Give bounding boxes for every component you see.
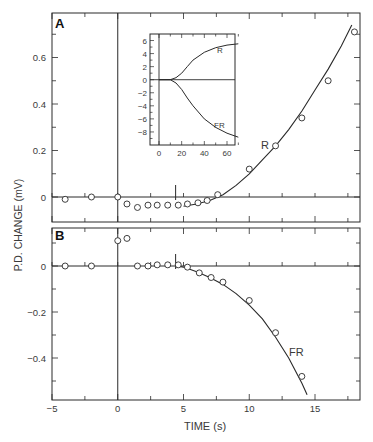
inset-y-tick-label: −2 bbox=[138, 89, 148, 98]
data-point bbox=[165, 202, 171, 208]
data-point bbox=[115, 238, 121, 244]
data-point bbox=[215, 192, 221, 198]
inset-x-tick-label: 40 bbox=[200, 149, 209, 158]
data-point bbox=[351, 29, 357, 35]
data-point bbox=[220, 279, 226, 285]
data-point bbox=[115, 194, 121, 200]
inset-label-fr: FR bbox=[214, 121, 225, 130]
inset-y-tick-label: −4 bbox=[138, 102, 148, 111]
y-tick-label: −0.2 bbox=[27, 307, 46, 318]
data-point bbox=[154, 262, 160, 268]
panel-label-a: A bbox=[55, 16, 65, 31]
curve-label-fr: FR bbox=[289, 346, 304, 358]
y-tick-label: 0.6 bbox=[33, 52, 46, 63]
data-point bbox=[246, 298, 252, 304]
fit-curve bbox=[177, 266, 307, 395]
data-point bbox=[273, 143, 279, 149]
data-point bbox=[325, 78, 331, 84]
data-point bbox=[145, 202, 151, 208]
data-point bbox=[88, 263, 94, 269]
inset-y-tick-label: −8 bbox=[138, 128, 148, 137]
figure: 00.20.40.6−50510150−0.2−0.46420−2−4−6−80… bbox=[0, 0, 373, 442]
y-tick-label: 0 bbox=[41, 192, 46, 203]
chart-layer: 00.20.40.6−50510150−0.2−0.46420−2−4−6−80… bbox=[27, 13, 360, 414]
data-point bbox=[184, 264, 190, 270]
data-point bbox=[175, 202, 181, 208]
x-tick-label: −5 bbox=[47, 403, 58, 414]
data-point bbox=[134, 204, 140, 210]
data-point bbox=[88, 194, 94, 200]
inset-x-tick-label: 20 bbox=[177, 149, 186, 158]
y-tick-label: 0.2 bbox=[33, 145, 46, 156]
data-point bbox=[299, 373, 305, 379]
y-tick-label: −0.4 bbox=[27, 353, 46, 364]
data-point bbox=[195, 200, 201, 206]
y-tick-label: 0 bbox=[41, 261, 46, 272]
data-point bbox=[184, 201, 190, 207]
data-point bbox=[154, 202, 160, 208]
data-point bbox=[299, 115, 305, 121]
data-point bbox=[273, 330, 279, 336]
data-point bbox=[62, 263, 68, 269]
chart-svg: 00.20.40.6−50510150−0.2−0.46420−2−4−6−80… bbox=[0, 0, 373, 442]
data-point bbox=[124, 235, 130, 241]
x-tick-label: 0 bbox=[115, 403, 120, 414]
data-point bbox=[124, 201, 130, 207]
data-point bbox=[62, 196, 68, 202]
y-tick-label: 0.4 bbox=[33, 99, 46, 110]
x-tick-label: 5 bbox=[181, 403, 186, 414]
inset-y-tick-label: −6 bbox=[138, 115, 148, 124]
data-point bbox=[246, 166, 252, 172]
data-point bbox=[165, 262, 171, 268]
x-axis-title: TIME (s) bbox=[184, 420, 226, 432]
curve-label-r: R bbox=[261, 139, 269, 151]
panel-label-b: B bbox=[55, 228, 64, 243]
inset-y-tick-label: 2 bbox=[143, 63, 148, 72]
inset-label-r: R bbox=[217, 46, 223, 55]
inset-x-tick-label: 60 bbox=[223, 149, 232, 158]
data-point bbox=[134, 263, 140, 269]
data-point bbox=[204, 197, 210, 203]
inset-x-tick-label: 0 bbox=[157, 149, 162, 158]
data-point bbox=[145, 263, 151, 269]
inset-y-tick-label: 6 bbox=[143, 37, 148, 46]
plot-frame bbox=[52, 228, 360, 400]
data-point bbox=[196, 270, 202, 276]
data-point bbox=[175, 262, 181, 268]
inset-y-tick-label: 4 bbox=[143, 50, 148, 59]
inset-y-tick-label: 0 bbox=[143, 76, 148, 85]
y-axis-title: P.D. CHANGE (mV) bbox=[12, 179, 24, 272]
data-point bbox=[208, 275, 214, 281]
x-tick-label: 10 bbox=[244, 403, 255, 414]
x-tick-label: 15 bbox=[310, 403, 321, 414]
